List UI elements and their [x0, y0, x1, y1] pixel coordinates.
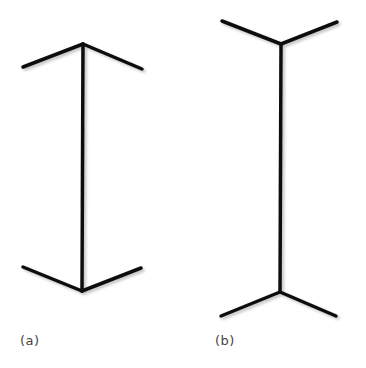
- fin-line: [23, 44, 83, 67]
- shaft-line: [280, 44, 281, 292]
- panel-b-arrows-outward: [221, 21, 337, 316]
- panel-a-arrows-inward: [23, 44, 142, 291]
- fin-line: [221, 292, 280, 316]
- muller-lyer-figure: [0, 0, 366, 368]
- fin-line: [222, 21, 281, 44]
- fin-line: [83, 44, 142, 69]
- fin-line: [280, 292, 336, 316]
- shaft-line: [82, 44, 83, 291]
- fin-line: [23, 267, 82, 291]
- fin-line: [82, 268, 141, 291]
- panel-b-label: (b): [215, 333, 235, 348]
- fin-line: [281, 22, 337, 44]
- panel-a-label: (a): [20, 333, 40, 348]
